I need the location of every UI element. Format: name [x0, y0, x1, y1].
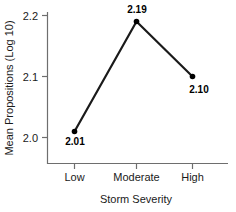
data-point-moderate [134, 19, 140, 25]
x-category-label-high: High [181, 171, 204, 183]
data-label-low: 2.01 [65, 136, 85, 147]
chart-canvas: 2.2 2.1 2.0 Mean Propositions (Log 10) L… [0, 0, 236, 212]
y-tick-label-2.1: 2.1 [23, 71, 38, 83]
data-point-high [190, 74, 196, 80]
y-axis-title: Mean Propositions (Log 10) [3, 20, 15, 155]
series-line-mean-propositions [75, 22, 193, 132]
x-category-label-moderate: Moderate [113, 171, 159, 183]
data-label-moderate: 2.19 [127, 4, 147, 15]
x-category-label-low: Low [64, 171, 84, 183]
line-chart-figure: 2.2 2.1 2.0 Mean Propositions (Log 10) L… [0, 0, 236, 212]
y-tick-label-2.2: 2.2 [23, 10, 38, 22]
data-point-low [72, 129, 78, 135]
data-label-high: 2.10 [189, 84, 209, 95]
y-tick-label-2.0: 2.0 [23, 132, 38, 144]
x-axis-title: Storm Severity [100, 193, 173, 205]
